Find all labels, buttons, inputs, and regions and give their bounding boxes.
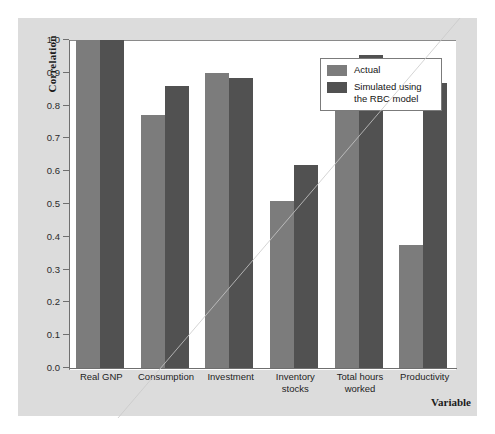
x-axis-tick-label-line: worked [328, 383, 393, 395]
y-axis-tick: 0.0 [0, 362, 69, 374]
legend: ActualSimulated usingthe RBC model [320, 58, 442, 111]
legend-item: Simulated usingthe RBC model [327, 81, 435, 104]
y-axis-tick-label: 0.0 [47, 362, 60, 374]
legend-label: Simulated usingthe RBC model [354, 81, 422, 104]
bar-group [198, 40, 263, 368]
bar [270, 201, 294, 368]
y-axis-tick-label: 0.1 [47, 329, 60, 341]
x-axis-title: Variable [431, 396, 471, 408]
x-axis-tick-label-line: Total hours [328, 371, 393, 383]
figure: Correlation 1.00.90.80.70.60.50.40.30.20… [0, 0, 495, 434]
y-axis-tick-label: 0.9 [47, 67, 60, 79]
bar [399, 245, 423, 368]
y-axis-tick: 0.6 [0, 165, 69, 177]
legend-swatch [327, 65, 347, 76]
legend-label-line: Simulated using [354, 81, 422, 93]
y-axis-tick-label: 0.2 [47, 296, 60, 308]
y-axis-tick: 0.7 [0, 132, 69, 144]
y-axis-tick: 0.9 [0, 67, 69, 79]
legend-item: Actual [327, 64, 435, 76]
bar [205, 73, 229, 368]
bar [294, 165, 318, 368]
bar-group [134, 40, 199, 368]
x-axis-tick-labels: Real GNPConsumptionInvestmentInventoryst… [69, 371, 457, 405]
x-axis-tick-label: Inventorystocks [263, 371, 328, 394]
legend-label-line: the RBC model [354, 93, 422, 105]
bar-group [69, 40, 134, 368]
y-axis-tick: 0.8 [0, 100, 69, 112]
x-axis-tick-label: Productivity [392, 371, 457, 383]
y-axis-tick: 0.5 [0, 198, 69, 210]
y-axis-tick-label: 0.8 [47, 100, 60, 112]
x-axis-tick-label-line: stocks [263, 383, 328, 395]
bar [100, 40, 124, 368]
bar [335, 86, 359, 368]
y-axis-tick: 0.1 [0, 329, 69, 341]
x-axis-tick-label-line: Inventory [263, 371, 328, 383]
bar-group [263, 40, 328, 368]
y-axis-tick: 0.4 [0, 231, 69, 243]
y-axis-tick-label: 0.5 [47, 198, 60, 210]
y-axis-tick-label: 0.6 [47, 165, 60, 177]
bar [165, 86, 189, 368]
y-axis-tick-label: 1.0 [47, 34, 60, 46]
y-axis-tick-label: 0.7 [47, 132, 60, 144]
y-axis-tick: 1.0 [0, 34, 69, 46]
y-axis-tick-label: 0.3 [47, 264, 60, 276]
bar [423, 83, 447, 368]
x-axis-tick-label-line: Productivity [392, 371, 457, 383]
x-axis-tick-label: Investment [198, 371, 263, 383]
bar [141, 115, 165, 368]
x-axis-tick-label: Real GNP [69, 371, 134, 383]
legend-swatch [327, 82, 347, 93]
legend-label: Actual [354, 64, 380, 76]
y-axis-tick: 0.3 [0, 264, 69, 276]
x-axis-tick-label: Total hoursworked [328, 371, 393, 394]
legend-label-line: Actual [354, 64, 380, 76]
y-axis-tick: 0.2 [0, 296, 69, 308]
x-axis-tick-label-line: Consumption [134, 371, 199, 383]
x-axis-tick-label-line: Real GNP [69, 371, 134, 383]
bar [76, 40, 100, 368]
x-axis-tick-label-line: Investment [198, 371, 263, 383]
x-axis-tick-label: Consumption [134, 371, 199, 383]
bar [229, 78, 253, 368]
y-axis-tick-label: 0.4 [47, 231, 60, 243]
x-axis-line [69, 368, 457, 369]
